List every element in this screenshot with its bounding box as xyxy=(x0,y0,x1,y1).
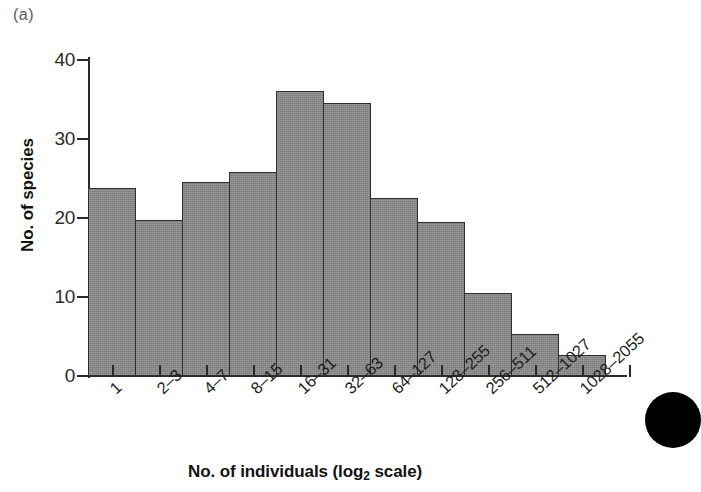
bar-2-3 xyxy=(135,220,183,376)
x-tick-5 xyxy=(347,365,349,377)
bar-1 xyxy=(88,188,136,376)
y-tick-label-20: 20 xyxy=(41,207,75,229)
x-tick-end xyxy=(629,365,631,377)
bar-4-7 xyxy=(182,182,230,376)
x-tick-3 xyxy=(253,365,255,377)
x-tick-0 xyxy=(112,365,114,377)
y-tick-label-30: 30 xyxy=(41,128,75,150)
scan-artifact-blob xyxy=(645,392,701,448)
x-tick-10 xyxy=(582,365,584,377)
x-tick-9 xyxy=(535,365,537,377)
y-tick-label-10: 10 xyxy=(41,286,75,308)
bar-16-31 xyxy=(276,91,324,376)
x-axis-title: No. of individuals (log2 scale) xyxy=(188,462,422,482)
y-tick-label-0: 0 xyxy=(41,365,75,387)
bar-32-63 xyxy=(323,103,371,376)
x-tick-2 xyxy=(206,365,208,377)
bar-64-127 xyxy=(370,198,418,376)
x-tick-8 xyxy=(488,365,490,377)
x-tick-4 xyxy=(300,365,302,377)
x-axis-title-pre: No. of individuals (log xyxy=(188,462,363,481)
x-axis-title-sub: 2 xyxy=(363,469,370,483)
x-label-0: 1 xyxy=(106,378,126,398)
bar-8-15 xyxy=(229,172,277,376)
x-tick-1 xyxy=(159,365,161,377)
y-tick-label-40: 40 xyxy=(41,49,75,71)
x-tick-7 xyxy=(441,365,443,377)
x-tick-6 xyxy=(394,365,396,377)
x-axis-title-post: scale) xyxy=(370,462,422,481)
y-axis-title: No. of species xyxy=(18,125,38,265)
bars-container xyxy=(88,60,625,376)
